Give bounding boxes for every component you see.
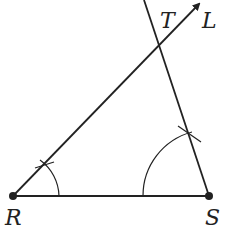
label-l: L xyxy=(201,8,217,33)
arc-at-s xyxy=(143,132,192,196)
point-s xyxy=(205,192,213,200)
label-t: T xyxy=(160,8,177,33)
label-s: S xyxy=(205,205,220,230)
label-r: R xyxy=(4,205,22,230)
geometry-diagram: R S T L xyxy=(0,0,229,238)
line-st xyxy=(144,0,209,196)
point-r xyxy=(9,192,17,200)
